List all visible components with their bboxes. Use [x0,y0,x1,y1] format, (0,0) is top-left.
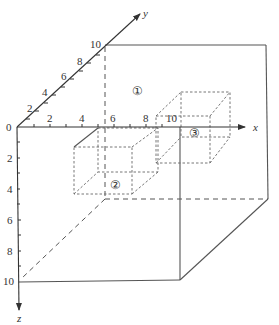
coordinate-box-diagram: 0 2 4 6 8 10 x 2 4 6 8 10 y 2 4 6 8 10 z… [0,0,279,325]
x-axis-label: x [252,121,258,133]
origin-label: 0 [6,121,12,133]
z-tick-8: 8 [7,245,13,257]
region-1-label: ① [132,84,143,98]
large-box [19,45,268,282]
y-axis [17,14,140,127]
region-3-label: ③ [189,126,200,140]
y-tick-4: 4 [42,86,48,98]
z-tick-4: 4 [7,183,13,195]
z-axis-label: z [16,312,22,324]
y-tick-10: 10 [90,38,102,50]
y-axis-label: y [142,7,148,19]
x-tick-8: 8 [143,112,149,124]
y-tick-2: 2 [27,102,33,114]
x-tick-2: 2 [47,112,53,124]
z-tick-10: 10 [3,275,15,287]
y-tick-8: 8 [77,55,83,67]
x-tick-10: 10 [166,112,178,124]
x-tick-4: 4 [79,112,85,124]
y-tick-6: 6 [61,70,67,82]
z-axis [17,127,19,310]
z-tick-2: 2 [7,152,13,164]
x-tick-6: 6 [110,112,116,124]
region-2-label: ② [110,178,121,192]
z-tick-6: 6 [7,214,13,226]
